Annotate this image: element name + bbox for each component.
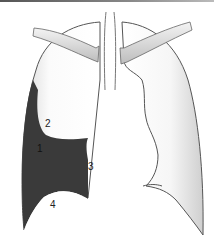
label-1: 1 [37, 144, 43, 154]
lungs-diagram [0, 0, 214, 244]
trachea-left-line [104, 12, 106, 90]
label-3: 3 [88, 162, 94, 172]
trachea-right-line [114, 12, 116, 90]
label-4: 4 [50, 200, 56, 210]
label-2: 2 [45, 119, 51, 129]
